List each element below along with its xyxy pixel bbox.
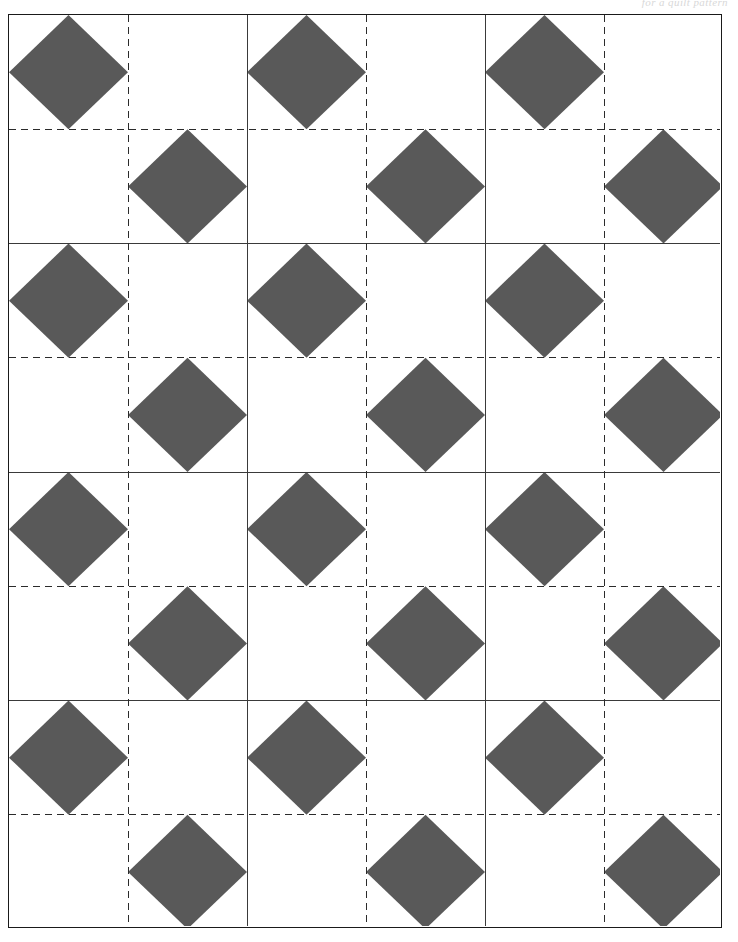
page-header-text: for a quilt pattern bbox=[642, 0, 728, 8]
quilt-pattern-svg bbox=[9, 15, 720, 926]
pattern-background bbox=[9, 15, 720, 926]
page-root: for a quilt pattern bbox=[0, 0, 738, 942]
pattern-frame bbox=[8, 14, 722, 928]
